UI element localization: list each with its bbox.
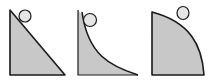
ramp-concave bbox=[78, 10, 138, 75]
ramps-diagram bbox=[0, 0, 212, 81]
ball-icon bbox=[84, 14, 97, 27]
ball-icon bbox=[19, 10, 31, 22]
ramp-convex bbox=[152, 7, 204, 76]
ramp-straight bbox=[10, 10, 65, 75]
ball-icon bbox=[177, 7, 189, 20]
